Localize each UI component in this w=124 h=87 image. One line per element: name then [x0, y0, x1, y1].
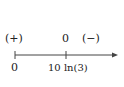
zero-label: 0 — [62, 33, 69, 45]
left-sign-label: (+) — [5, 33, 23, 45]
start-value-label: 0 — [11, 62, 18, 74]
arrow-head-icon — [112, 53, 118, 58]
right-sign-label: (−) — [82, 33, 100, 45]
critical-value-label: 10 ln(3) — [48, 62, 88, 74]
